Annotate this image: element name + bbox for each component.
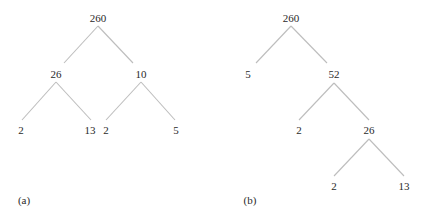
edge-b-root-l [256, 26, 291, 63]
tree-a-node-root: 260 [90, 12, 107, 24]
tree-a-node-r: 10 [136, 68, 147, 80]
edge-b-rr-rrr [369, 139, 404, 176]
tree-b-caption: (b) [244, 194, 257, 206]
edge-a-r-rl [106, 82, 141, 120]
edge-b-rr-rrl [334, 139, 369, 176]
tree-b-node-rr: 26 [364, 124, 375, 136]
tree-b-node-l: 5 [245, 68, 251, 80]
tree-b-node-r: 52 [329, 68, 340, 80]
tree-a-node-l: 26 [51, 68, 62, 80]
tree-b-node-rrl: 2 [331, 180, 337, 192]
tree-a-node-ll: 2 [18, 124, 24, 136]
edge-a-root-r [98, 26, 133, 63]
edge-a-r-rr [141, 82, 175, 120]
tree-a-caption: (a) [18, 194, 30, 206]
edge-b-root-r [291, 26, 327, 63]
tree-b-edges [256, 26, 404, 176]
tree-b-node-root: 260 [283, 12, 300, 24]
tree-a-edges [22, 26, 175, 120]
tree-a-node-rl: 2 [103, 124, 109, 136]
edge-b-r-rl [299, 83, 334, 120]
tree-b-node-rrr: 13 [399, 180, 410, 192]
edge-a-root-l [64, 26, 98, 63]
tree-a-node-lr: 13 [85, 124, 96, 136]
edge-a-l-ll [22, 82, 56, 120]
tree-a-node-rr: 5 [173, 124, 179, 136]
tree-b-node-rl: 2 [296, 124, 302, 136]
tree-edges [0, 0, 423, 224]
edge-a-l-lr [56, 82, 91, 120]
edge-b-r-rr [334, 83, 369, 120]
